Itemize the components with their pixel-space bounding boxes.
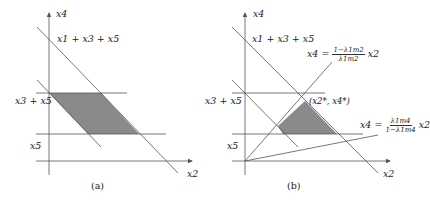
upper-line-label-b: x1 + x3 + x5 (252, 33, 314, 44)
ray-lower-numerator: λ1m4 (390, 117, 412, 126)
ray-upper-numerator: 1−λ1m2 (332, 46, 364, 55)
y-axis-label-a: x4 (56, 8, 67, 19)
feasible-region-a (49, 93, 139, 134)
ray-lower-rhs: x2 (419, 119, 430, 130)
y-axis-label-b: x4 (253, 8, 264, 19)
optimal-point-label: (x2*, x4*) (309, 96, 350, 106)
ray-upper-equation: x4 = 1−λ1m2 λ1m2 x2 (307, 46, 379, 63)
upper-line-label-a: x1 + x3 + x5 (57, 33, 119, 44)
x-axis-label-b: x2 (383, 168, 394, 179)
ray-upper-denominator: λ1m2 (339, 55, 359, 63)
mid-level-label-a: x3 + x5 (15, 95, 52, 106)
low-level-label-a: x5 (30, 140, 41, 151)
ray-upper-fraction: 1−λ1m2 λ1m2 (332, 46, 364, 63)
ray-upper-rhs: x2 (368, 48, 379, 59)
mid-level-label-b: x3 + x5 (205, 95, 242, 106)
low-level-label-b: x5 (227, 140, 238, 151)
ray-lower-fraction: λ1m4 1−λ1m4 (385, 117, 415, 134)
ray-lower-lhs: x4 = (360, 119, 382, 130)
caption-b: (b) (287, 180, 301, 191)
caption-a: (a) (91, 180, 104, 191)
ray-lower-denominator: 1−λ1m4 (385, 126, 415, 134)
x-axis-label-a: x2 (187, 168, 198, 179)
ray-lower-equation: x4 = λ1m4 1−λ1m4 x2 (360, 117, 430, 134)
ray-upper-lhs: x4 = (307, 48, 329, 59)
inner-diagonal-b (232, 80, 298, 147)
